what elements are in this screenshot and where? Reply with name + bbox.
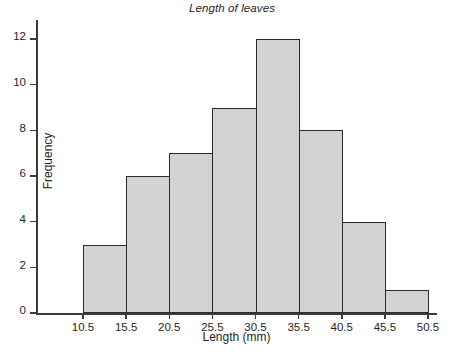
- x-axis-tick: [427, 313, 429, 319]
- histogram-figure: Length of leaves 121086420 10.515.520.52…: [0, 0, 464, 356]
- y-axis-tick: 4: [30, 221, 36, 223]
- histogram-bar: [342, 222, 387, 313]
- y-axis-tick-label: 8: [20, 122, 26, 134]
- y-axis-tick: 8: [30, 130, 36, 132]
- y-axis-tick-label: 10: [13, 76, 26, 88]
- y-axis-tick-label: 4: [20, 213, 26, 225]
- y-axis-tick: 6: [30, 175, 36, 177]
- x-axis-tick: [341, 313, 343, 319]
- x-axis-tick: [125, 313, 127, 319]
- y-axis-tick-label: 12: [13, 30, 26, 42]
- plot-area: 121086420 10.515.520.525.530.535.540.545…: [36, 20, 437, 313]
- y-axis-line: [36, 20, 38, 313]
- y-axis-tick: 0: [30, 312, 36, 314]
- y-axis-tick-label: 0: [20, 304, 26, 316]
- x-axis-line: [36, 313, 437, 315]
- x-axis-tick: [169, 313, 171, 319]
- y-axis-title: Frequency: [41, 101, 55, 221]
- x-axis-tick: [298, 313, 300, 319]
- x-axis-tick: [82, 313, 84, 319]
- histogram-bar: [212, 108, 257, 314]
- x-axis-title: Length (mm): [36, 330, 437, 344]
- histogram-bar: [299, 130, 344, 313]
- histogram-bar: [83, 245, 128, 314]
- chart-title: Length of leaves: [0, 2, 464, 14]
- y-axis-tick-label: 2: [20, 259, 26, 271]
- histogram-bar: [256, 39, 301, 313]
- y-axis-tick-label: 6: [20, 167, 26, 179]
- x-axis-tick: [255, 313, 257, 319]
- y-axis-tick: 2: [30, 267, 36, 269]
- histogram-bar: [385, 290, 430, 313]
- x-axis-tick: [212, 313, 214, 319]
- x-axis-tick: [384, 313, 386, 319]
- histogram-bar: [126, 176, 171, 313]
- histogram-bar: [169, 153, 214, 313]
- y-axis-tick: 12: [30, 38, 36, 40]
- y-axis-tick: 10: [30, 84, 36, 86]
